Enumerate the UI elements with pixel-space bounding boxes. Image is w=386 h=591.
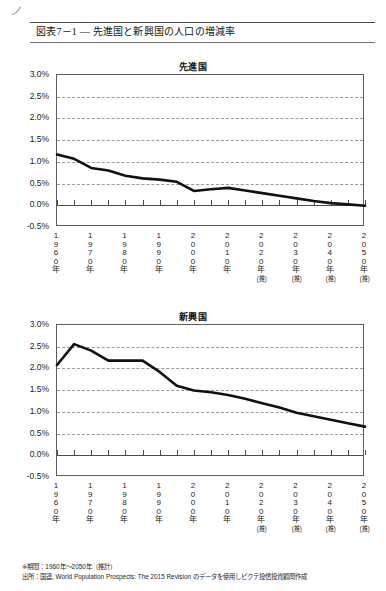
y-axis-tick-label: 2.0% bbox=[0, 362, 52, 372]
x-axis-label: 1990年 bbox=[154, 482, 164, 525]
y-axis-tick-label: 0.0% bbox=[0, 449, 52, 459]
note-source: 出所：国連, World Population Prospects: The 2… bbox=[22, 572, 380, 582]
x-axis-label: 2040年(推) bbox=[325, 232, 335, 283]
y-axis-tick-label: 0.5% bbox=[0, 428, 52, 438]
x-axis-label: 2050年(推) bbox=[359, 232, 369, 283]
y-axis-tick-label: 3.0% bbox=[0, 319, 52, 329]
note-period: ※期間：1960年～2050年（推計） bbox=[22, 562, 380, 572]
x-axis-label: 2000年 bbox=[188, 482, 198, 525]
y-axis-tick-label: 0.0% bbox=[0, 199, 52, 209]
x-axis-label: 1980年 bbox=[119, 232, 129, 275]
x-axis-labels-developed: 1960年1970年1980年1990年2000年2010年2020年(推)20… bbox=[56, 232, 364, 290]
plot-area-developed bbox=[56, 74, 364, 226]
series-line-emerging bbox=[57, 325, 365, 477]
y-axis-tick-label: 0.5% bbox=[0, 178, 52, 188]
y-axis-tick-label: -0.5% bbox=[0, 471, 52, 481]
y-axis-tick-label: 2.0% bbox=[0, 112, 52, 122]
plot-area-emerging bbox=[56, 324, 364, 476]
y-axis-tick-label: 2.5% bbox=[0, 91, 52, 101]
chart-title-emerging: 新興国 bbox=[0, 310, 386, 323]
y-axis-tick-label: 2.5% bbox=[0, 341, 52, 351]
y-axis-tick-label: 1.0% bbox=[0, 156, 52, 166]
chart-emerging: 新興国 1960年1970年1980年1990年2000年2010年2020年(… bbox=[0, 310, 386, 540]
x-axis-label: 2010年 bbox=[222, 232, 232, 275]
scrap-mark: ノ bbox=[10, 2, 21, 18]
footnotes: ※期間：1960年～2050年（推計） 出所：国連, World Populat… bbox=[22, 562, 380, 581]
series-line-developed bbox=[57, 75, 365, 227]
y-axis-tick-label: 1.5% bbox=[0, 384, 52, 394]
x-axis-label: 2010年 bbox=[222, 482, 232, 525]
x-axis-tick bbox=[365, 450, 366, 455]
y-axis-tick-label: 3.0% bbox=[0, 69, 52, 79]
x-axis-label: 1970年 bbox=[85, 482, 95, 525]
x-axis-labels-emerging: 1960年1970年1980年1990年2000年2010年2020年(推)20… bbox=[56, 482, 364, 540]
x-axis-label: 2040年(推) bbox=[325, 482, 335, 533]
x-axis-label: 2030年(推) bbox=[291, 232, 301, 283]
chart-title-developed: 先進国 bbox=[0, 60, 386, 73]
title-rule-bottom bbox=[30, 42, 375, 43]
figure-page: ノ 図表7－1 ― 先進国と新興国の人口の増減率 先進国 1960年1970年1… bbox=[0, 0, 386, 591]
x-axis-label: 2030年(推) bbox=[291, 482, 301, 533]
x-axis-label: 1970年 bbox=[85, 232, 95, 275]
x-axis-label: 1960年 bbox=[51, 232, 61, 275]
y-axis-tick-label: 1.0% bbox=[0, 406, 52, 416]
x-axis-label: 1980年 bbox=[119, 482, 129, 525]
x-axis-label: 2020年(推) bbox=[256, 232, 266, 283]
y-axis-tick-label: -0.5% bbox=[0, 221, 52, 231]
x-axis-label: 1960年 bbox=[51, 482, 61, 525]
chart-developed: 先進国 1960年1970年1980年1990年2000年2010年2020年(… bbox=[0, 60, 386, 290]
page-title: 図表7－1 ― 先進国と新興国の人口の増減率 bbox=[30, 23, 375, 42]
x-axis-label: 2050年(推) bbox=[359, 482, 369, 533]
x-axis-label: 2020年(推) bbox=[256, 482, 266, 533]
figure-title-block: 図表7－1 ― 先進国と新興国の人口の増減率 bbox=[30, 22, 375, 43]
x-axis-label: 1990年 bbox=[154, 232, 164, 275]
x-axis-label: 2000年 bbox=[188, 232, 198, 275]
y-axis-tick-label: 1.5% bbox=[0, 134, 52, 144]
